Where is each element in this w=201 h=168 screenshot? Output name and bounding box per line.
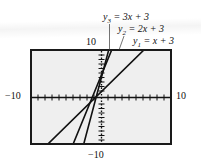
equation-label-y3-rhs: = 3x + 3	[113, 11, 148, 22]
axis-label-left: −10	[5, 91, 21, 101]
equation-label-y1: y1 = x + 3	[133, 36, 174, 49]
axis-label-top: 10	[86, 37, 96, 47]
leader-line-y2	[119, 36, 124, 50]
plot-graphics	[0, 0, 201, 168]
equation-label-y1-sub: 1	[137, 41, 141, 49]
equation-label-y2-rhs: = 2x + 3	[128, 23, 163, 34]
equation-label-y2-sub: 2	[122, 29, 126, 37]
axis-label-bottom: −10	[88, 150, 104, 160]
equation-label-y3-sub: 3	[107, 17, 111, 25]
linear-functions-figure: y3 = 3x + 3 y2 = 2x + 3 y1 = x + 3 10 −1…	[0, 0, 201, 168]
axis-label-right: 10	[176, 91, 186, 101]
equation-label-y1-rhs: = x + 3	[143, 35, 173, 46]
